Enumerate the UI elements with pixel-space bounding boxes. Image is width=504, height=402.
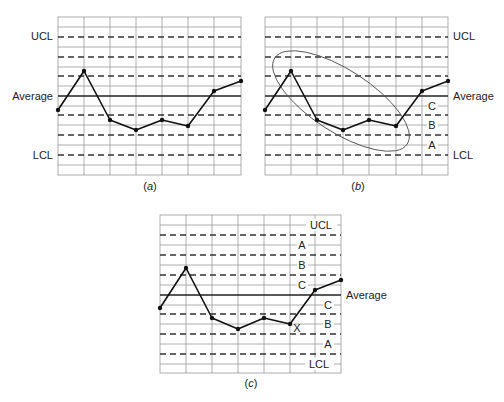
zone-b-upper-label: B <box>298 259 305 271</box>
zone-a-label: A <box>428 139 436 151</box>
zone-c-upper-label: C <box>298 279 306 291</box>
zone-a-lower-label: A <box>324 338 332 350</box>
panel-c-series <box>160 268 341 329</box>
panel-c-grid <box>160 215 341 373</box>
zone-b-lower-label: B <box>324 318 331 330</box>
control-chart-figure: UCL Average LCL (a) <box>0 0 504 402</box>
average-label: Average <box>12 90 53 102</box>
zone-c-lower-label: C <box>324 299 332 311</box>
zone-a-upper-label: A <box>298 239 306 251</box>
panel-c-zone-lines <box>160 235 341 354</box>
zone-b-label: B <box>428 119 435 131</box>
panel-a: UCL Average LCL (a) <box>12 17 243 192</box>
panel-a-zone-lines <box>58 37 241 155</box>
ucl-label: UCL <box>31 30 53 42</box>
panel-b-zone-lines <box>265 37 448 155</box>
highlight-ellipse <box>258 32 424 170</box>
lcl-label: LCL <box>33 149 53 161</box>
panel-c-caption: (c) <box>245 377 258 389</box>
panel-b-series <box>265 71 448 130</box>
lcl-label: LCL <box>309 358 329 370</box>
panel-c: UCL A B C C B A LCL X Average (c) <box>158 215 387 389</box>
average-label: Average <box>346 289 387 301</box>
lcl-label: LCL <box>453 149 473 161</box>
zone-c-label: C <box>428 100 436 112</box>
panel-b-caption: (b) <box>351 180 364 192</box>
ucl-label: UCL <box>453 30 475 42</box>
ucl-label: UCL <box>310 219 332 231</box>
panel-b: C B A UCL Average LCL (b) <box>258 17 494 192</box>
average-label: Average <box>453 90 494 102</box>
x-marker: X <box>293 322 301 334</box>
panel-a-series <box>58 71 241 130</box>
panel-a-caption: (a) <box>143 180 156 192</box>
